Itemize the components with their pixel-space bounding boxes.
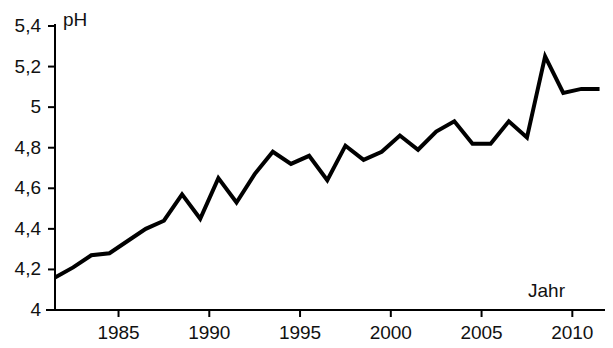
x-axis-label: Jahr [528,281,565,300]
chart-plot-area [0,0,613,348]
ph-line-chart: 44,24,44,64,855,25,4 1985199019952000200… [0,0,613,348]
data-series-line [55,56,600,277]
y-tick-label: 4,2 [0,259,41,278]
x-tick-label: 2005 [442,323,522,342]
x-tick-label: 1985 [79,323,159,342]
y-tick-label: 4,8 [0,138,41,157]
x-tick-label: 2000 [351,323,431,342]
y-tick-label: 4 [0,300,41,319]
y-tick-label: 4,4 [0,219,41,238]
y-tick-label: 5,4 [0,16,41,35]
x-tick-label: 2010 [532,323,612,342]
y-tick-label: 4,6 [0,178,41,197]
y-tick-label: 5 [0,97,41,116]
x-tick-label: 1995 [260,323,340,342]
y-tick-marks [48,26,55,310]
x-tick-label: 1990 [169,323,249,342]
x-tick-marks [119,310,573,317]
axis-lines [46,24,605,310]
y-tick-label: 5,2 [0,57,41,76]
y-axis-label: pH [63,10,87,29]
